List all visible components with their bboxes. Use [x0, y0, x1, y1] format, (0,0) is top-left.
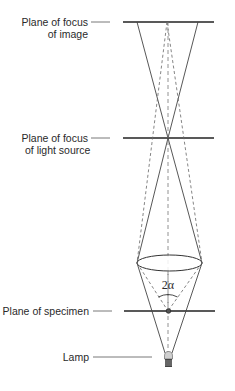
optical-path-diagram: 2α Plane of focus of image Plane of focu…	[0, 0, 235, 391]
light-plane-label-line1: Plane of focus	[21, 132, 88, 144]
image-plane-label-line2: of image	[48, 28, 88, 40]
angle-label: 2α	[162, 278, 175, 292]
lamp-icon	[165, 352, 173, 368]
lamp-label: Lamp	[63, 351, 89, 363]
specimen-point-icon	[166, 309, 171, 314]
condenser-lens-icon	[137, 255, 202, 271]
light-plane-label-line2: of light source	[25, 144, 91, 156]
image-plane-label-line1: Plane of focus	[21, 16, 88, 28]
specimen-plane-label: Plane of specimen	[3, 305, 90, 317]
